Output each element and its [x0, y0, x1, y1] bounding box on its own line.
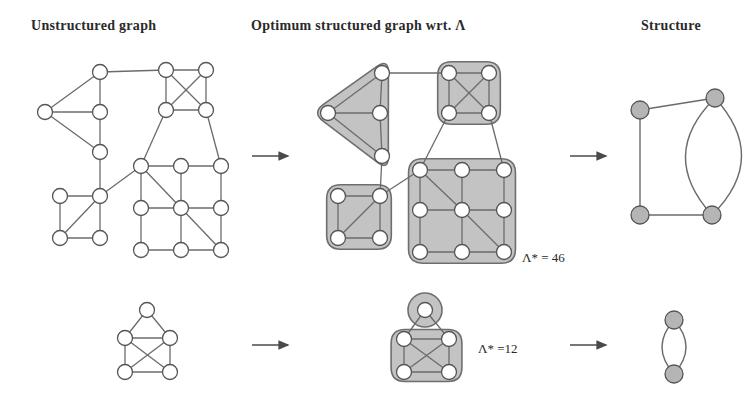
unstructured-row2-node — [118, 331, 133, 346]
structure-row1-node — [631, 206, 649, 224]
structure-row1-edge-curved — [685, 98, 715, 215]
structure-row2-node — [665, 365, 683, 383]
unstructured-row1-node — [159, 63, 174, 78]
unstructured-row1-edge — [45, 112, 100, 152]
unstructured-row1-edge — [141, 166, 181, 208]
unstructured-row1-node — [93, 231, 108, 246]
graph-structuring-figure: Unstructured graph Optimum structured gr… — [0, 0, 754, 405]
unstructured-row2-node — [163, 365, 178, 380]
structure-row1-node — [631, 101, 649, 119]
structured-row1-node — [321, 106, 336, 121]
unstructured-row1-node — [53, 231, 68, 246]
structured-row1-node — [375, 149, 390, 164]
unstructured-row1-node — [214, 243, 229, 258]
structured-row2-node — [397, 332, 412, 347]
structure-row1-node — [706, 89, 724, 107]
structured-row2-node — [442, 365, 457, 380]
unstructured-row1-node — [199, 103, 214, 118]
unstructured-row1-edge — [141, 110, 166, 166]
structured-row1-node — [497, 163, 512, 178]
structured-row1-node — [482, 66, 497, 81]
structured-row2-node — [397, 365, 412, 380]
unstructured-row1-node — [134, 201, 149, 216]
unstructured-row2-node — [118, 365, 133, 380]
unstructured-row1-node — [93, 105, 108, 120]
unstructured-row1-edge — [45, 72, 100, 112]
unstructured-row1-node — [93, 65, 108, 80]
structured-row1-node — [497, 245, 512, 260]
structured-row1-node — [373, 189, 388, 204]
unstructured-row1-node — [174, 201, 189, 216]
structured-row1-node — [413, 245, 428, 260]
unstructured-row1-node — [159, 103, 174, 118]
unstructured-row1-node — [174, 159, 189, 174]
unstructured-row2-node — [163, 331, 178, 346]
structure-row1-edge-curved — [712, 98, 742, 215]
unstructured-row1-node — [214, 159, 229, 174]
unstructured-row1-edge — [206, 110, 221, 166]
structured-row1-node — [442, 66, 457, 81]
structured-row1-node — [482, 106, 497, 121]
structured-row2-node — [442, 332, 457, 347]
structure-row1-node — [703, 206, 721, 224]
structured-row1-node — [331, 189, 346, 204]
structured-row1-node — [455, 245, 470, 260]
unstructured-row1-node — [53, 189, 68, 204]
unstructured-row1-node — [134, 243, 149, 258]
structure-row2-node — [665, 311, 683, 329]
unstructured-row1-node — [199, 63, 214, 78]
unstructured-row1-node — [93, 145, 108, 160]
structured-row1-node — [373, 231, 388, 246]
structured-row1-node — [413, 203, 428, 218]
structured-row1-node — [455, 203, 470, 218]
unstructured-row1-node — [134, 159, 149, 174]
unstructured-row1-edge — [100, 70, 166, 72]
structured-row1-node — [331, 231, 346, 246]
structured-row1-node — [375, 66, 390, 81]
structured-row1-node — [455, 163, 470, 178]
figure-canvas — [0, 0, 754, 405]
unstructured-row2-node — [140, 303, 155, 318]
structured-row1-node — [497, 203, 512, 218]
structured-row1-node — [373, 106, 388, 121]
unstructured-row1-node — [214, 201, 229, 216]
structured-row2-node — [418, 303, 433, 318]
structured-row1-node — [413, 163, 428, 178]
unstructured-row1-edge — [60, 196, 100, 238]
structure-row1-edge — [640, 98, 715, 110]
unstructured-row1-node — [38, 105, 53, 120]
unstructured-row1-edge — [181, 208, 221, 250]
structured-row1-node — [442, 106, 457, 121]
unstructured-row1-node — [174, 243, 189, 258]
unstructured-row1-node — [93, 189, 108, 204]
